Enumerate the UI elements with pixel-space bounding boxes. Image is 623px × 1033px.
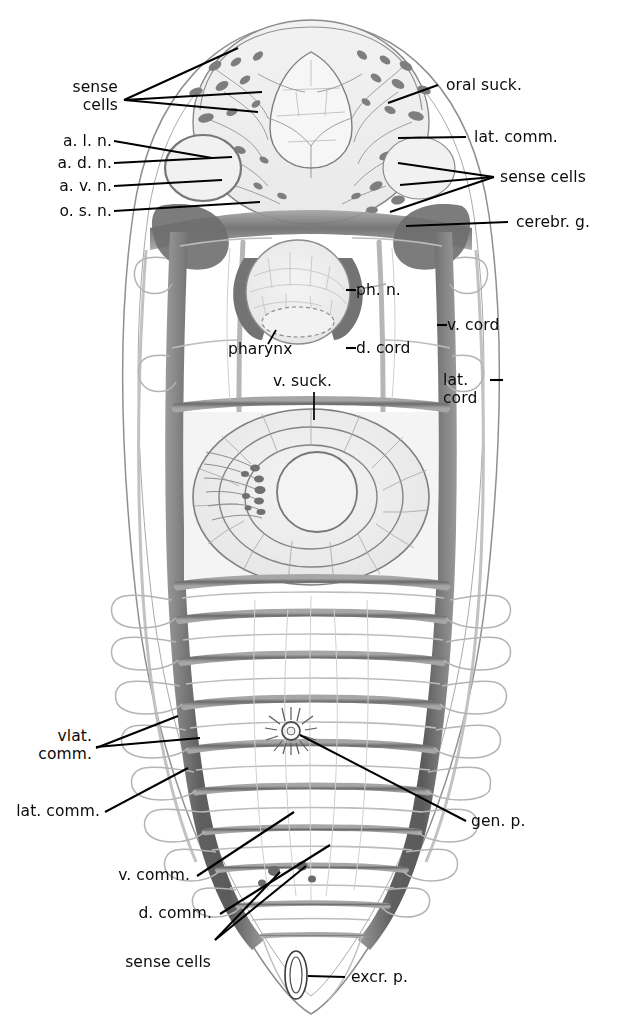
- label-ph-n: ph. n.: [356, 281, 401, 299]
- label-a-d-n: a. d. n.: [8, 154, 112, 172]
- label-vlat-comm: vlat. comm.: [0, 727, 92, 764]
- label-gen-p: gen. p.: [471, 812, 526, 830]
- genital-pore-lumen: [287, 727, 295, 735]
- excretory-pore-inner: [290, 957, 302, 993]
- label-oral-suck: oral suck.: [446, 76, 522, 94]
- label-a-v-n: a. v. n.: [8, 177, 112, 195]
- cerebral-ganglion-left: [152, 204, 229, 270]
- label-lat-comm-bottom: lat. comm.: [0, 802, 100, 820]
- oral-sucker-group: [165, 20, 455, 224]
- genital-pore-group: [265, 707, 317, 755]
- pharyngeal-lumen: [262, 307, 334, 337]
- label-cerebr-g: cerebr. g.: [516, 213, 590, 231]
- leader-lat-comm-top: [398, 137, 466, 138]
- label-d-cord: d. cord: [356, 339, 410, 357]
- label-v-cord: v. cord: [447, 316, 499, 334]
- leader-excr-p: [308, 976, 345, 977]
- label-lat-cord: lat. cord: [443, 371, 477, 408]
- cerebral-ganglion-right: [393, 204, 470, 270]
- label-v-suck: v. suck.: [273, 372, 332, 390]
- label-o-s-n: o. s. n.: [8, 202, 112, 220]
- ventral-sucker-aperture: [277, 452, 357, 532]
- label-sense-cells-right: sense cells: [500, 168, 586, 186]
- label-sense-cells-bottom: sense cells: [0, 953, 211, 971]
- ventral-sucker-group: [184, 409, 438, 585]
- label-lat-comm-top: lat. comm.: [474, 128, 558, 146]
- label-pharynx: pharynx: [228, 340, 292, 358]
- label-excr-p: excr. p.: [351, 968, 408, 986]
- label-d-comm: d. comm.: [0, 904, 212, 922]
- label-v-comm: v. comm.: [0, 866, 190, 884]
- label-sense-cells-top: sense cells: [10, 78, 118, 115]
- label-a-l-n: a. l. n.: [8, 132, 112, 150]
